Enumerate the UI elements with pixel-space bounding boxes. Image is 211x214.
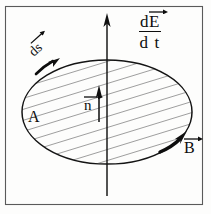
- diagram-canvas: [0, 0, 211, 214]
- physics-diagram-figure: dE d t n A B ds: [0, 0, 211, 214]
- vector-n: n: [84, 98, 92, 113]
- label-normal-vector: n: [84, 98, 92, 113]
- line-element-arc: [36, 61, 53, 74]
- label-area: A: [28, 109, 40, 125]
- label-B: B: [184, 140, 195, 156]
- vector-E: E: [149, 13, 160, 30]
- label-dE-dt: dE d t: [139, 13, 161, 51]
- label-magnetic-field: B: [184, 140, 195, 156]
- label-dE-dt-numerator: dE: [139, 13, 161, 32]
- label-dE-dt-d: d: [140, 12, 149, 31]
- label-n: n: [84, 98, 92, 113]
- label-dE-dt-denominator: d t: [139, 32, 161, 51]
- label-E: E: [149, 13, 160, 30]
- vector-B: B: [184, 140, 195, 156]
